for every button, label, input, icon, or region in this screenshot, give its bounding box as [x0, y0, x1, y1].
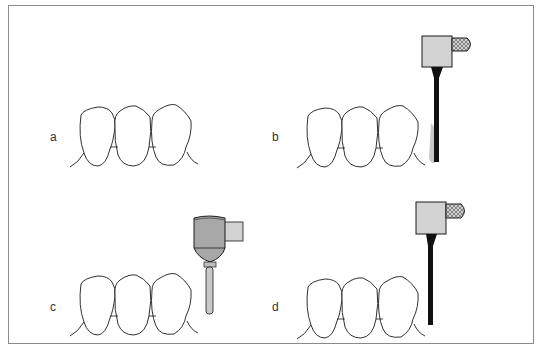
panel-a-teeth: [70, 105, 198, 168]
panel-b-ultrasonic-scaler-icon: [422, 36, 471, 163]
panel-d-ultrasonic-scaler-icon: [416, 202, 465, 325]
panel-c-handpiece-icon: [194, 216, 243, 314]
panel-label-d: d: [272, 301, 279, 313]
figure-drawing: [0, 0, 542, 353]
panel-b-teeth: [297, 106, 425, 169]
panel-c-teeth: [70, 274, 198, 337]
panel-label-a: a: [50, 131, 57, 143]
panel-d-teeth: [297, 277, 425, 340]
panel-label-b: b: [272, 131, 279, 143]
panel-label-c: c: [50, 301, 56, 313]
dental-procedure-figure: a b c d: [0, 0, 542, 353]
